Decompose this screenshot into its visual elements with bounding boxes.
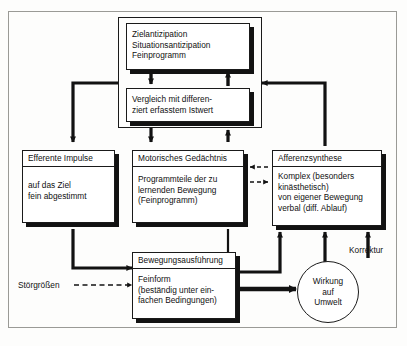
efferente-impulse-header: Efferente Impulse xyxy=(23,151,114,167)
motorisches-gedaechtnis-line-1: Programmteile der zu xyxy=(138,174,238,185)
afferenzsynthese-line-1: Komplex (besonders xyxy=(278,171,376,182)
label-korrektur: Korrektur xyxy=(349,245,383,255)
vergleich-body: Vergleich mit differen- ziert erfasstem … xyxy=(127,89,249,118)
motorisches-gedaechtnis-line-2: lernenden Bewegung xyxy=(138,185,238,196)
zielantizipation-line-2: Situationsantizipation xyxy=(132,40,244,51)
bewegungsausfuehrung-body: Feinform (beständig unter ein- fachen Be… xyxy=(133,269,235,309)
node-bewegungsausfuehrung[interactable]: Bewegungsausführung Feinform (beständig … xyxy=(132,252,236,319)
afferenzsynthese-line-4: verbal (diff. Ablauf) xyxy=(278,203,376,214)
efferente-impulse-body: auf das Ziel fein abgestimmt xyxy=(23,167,114,204)
node-vergleich[interactable]: Vergleich mit differen- ziert erfasstem … xyxy=(126,88,250,122)
node-motorisches-gedaechtnis[interactable]: Motorisches Gedächtnis Programmteile der… xyxy=(132,150,244,223)
afferenzsynthese-line-2: kinästhetisch) xyxy=(278,182,376,193)
efferente-impulse-line-2: fein abgestimmt xyxy=(28,191,109,202)
diagram-canvas: Zielantizipation Situationsantizipation … xyxy=(0,0,407,346)
arrow-efferente-to-bewegung xyxy=(73,229,132,268)
zielantizipation-line-1: Zielantizipation xyxy=(132,29,244,40)
arrow-bewegung-to-afferenz xyxy=(236,232,280,272)
vergleich-line-1: Vergleich mit differen- xyxy=(132,94,244,105)
node-efferente-impulse[interactable]: Efferente Impulse auf das Ziel fein abge… xyxy=(22,150,115,223)
wirkung-line-1: Wirkung xyxy=(313,276,343,287)
efferente-impulse-line-1: auf das Ziel xyxy=(28,180,109,191)
node-zielantizipation[interactable]: Zielantizipation Situationsantizipation … xyxy=(126,23,250,70)
zielantizipation-body: Zielantizipation Situationsantizipation … xyxy=(127,24,249,64)
label-stoergroessen: Störgrößen xyxy=(18,280,60,290)
node-wirkung-auf-umwelt[interactable]: Wirkung auf Umwelt xyxy=(297,261,359,323)
wirkung-line-3: Umwelt xyxy=(314,297,342,308)
afferenzsynthese-body: Komplex (besonders kinästhetisch) von ei… xyxy=(273,167,381,216)
arrow-afferenz-to-group xyxy=(262,83,325,146)
motorisches-gedaechtnis-line-3: (Feinprogramm) xyxy=(138,195,238,206)
node-afferenzsynthese[interactable]: Afferenzsynthese Komplex (besonders kinä… xyxy=(272,150,382,226)
arrow-group-to-efferente xyxy=(73,83,118,142)
bewegungsausfuehrung-line-1: Feinform xyxy=(138,274,230,285)
motorisches-gedaechtnis-body: Programmteile der zu lernenden Bewegung … xyxy=(133,167,243,209)
zielantizipation-line-3: Feinprogramm xyxy=(132,50,244,61)
bewegungsausfuehrung-line-2: (beständig unter ein- xyxy=(138,285,230,296)
bewegungsausfuehrung-line-3: fachen Bedingungen) xyxy=(138,295,230,306)
vergleich-line-2: ziert erfasstem Istwert xyxy=(132,105,244,116)
wirkung-line-2: auf xyxy=(322,287,334,298)
afferenzsynthese-line-3: von eigener Bewegung xyxy=(278,192,376,203)
motorisches-gedaechtnis-header: Motorisches Gedächtnis xyxy=(133,151,243,167)
afferenzsynthese-header: Afferenzsynthese xyxy=(273,151,381,167)
bewegungsausfuehrung-header: Bewegungsausführung xyxy=(133,253,235,269)
